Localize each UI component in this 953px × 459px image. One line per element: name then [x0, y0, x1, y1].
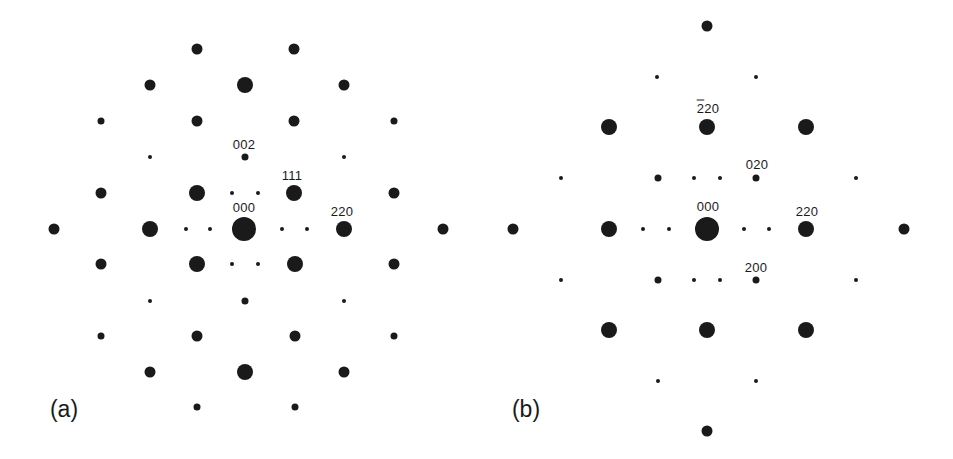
- diffraction-spot-small: [242, 154, 249, 161]
- diffraction-spot-tiny: [305, 227, 309, 231]
- diffraction-spot-large: [601, 119, 617, 135]
- diffraction-spot-center: [695, 217, 719, 241]
- diffraction-spot-large: [287, 256, 303, 272]
- miller-index-label: 020: [746, 157, 769, 172]
- diffraction-spot-large: [142, 221, 158, 237]
- diffraction-spot-medium: [389, 188, 400, 199]
- diffraction-spot-medium: [339, 80, 350, 91]
- diffraction-spot-tiny: [148, 299, 152, 303]
- diffraction-spot-tiny: [754, 75, 758, 79]
- diffraction-spot-large: [699, 119, 715, 135]
- diffraction-spot-large: [798, 221, 814, 237]
- diffraction-spot-large: [798, 322, 814, 338]
- diffraction-spot-medium: [192, 331, 203, 342]
- miller-index-label: 220: [796, 204, 819, 219]
- diffraction-spot-small: [391, 333, 398, 340]
- diffraction-spot-medium: [192, 116, 203, 127]
- diffraction-spot-tiny: [280, 227, 284, 231]
- diffraction-spot-medium: [702, 21, 713, 32]
- diffraction-spot-tiny: [692, 278, 696, 282]
- diffraction-spot-medium: [339, 367, 350, 378]
- miller-index-label: 000: [233, 200, 256, 215]
- diffraction-spot-medium: [96, 259, 107, 270]
- diffraction-spot-large: [798, 119, 814, 135]
- diffraction-spot-large: [189, 185, 205, 201]
- diffraction-spot-small: [753, 277, 760, 284]
- diffraction-spot-medium: [290, 331, 301, 342]
- miller-index-label: 220: [331, 204, 354, 219]
- diffraction-spot-large: [286, 185, 302, 201]
- diffraction-spot-large: [237, 77, 253, 93]
- diffraction-spot-tiny: [342, 299, 346, 303]
- diffraction-spot-medium: [289, 116, 300, 127]
- miller-index-label: 220: [697, 101, 720, 116]
- diffraction-spot-tiny: [256, 191, 260, 195]
- diffraction-spot-small: [753, 175, 760, 182]
- diffraction-spot-tiny: [559, 278, 563, 282]
- diffraction-spot-tiny: [718, 176, 722, 180]
- diffraction-spot-tiny: [854, 278, 858, 282]
- diffraction-spot-small: [655, 277, 662, 284]
- diffraction-spot-small: [98, 118, 105, 125]
- diffraction-spot-tiny: [256, 262, 260, 266]
- diffraction-spot-tiny: [667, 227, 671, 231]
- diffraction-spot-tiny: [767, 227, 771, 231]
- diffraction-spot-tiny: [184, 227, 188, 231]
- diffraction-spot-tiny: [148, 155, 152, 159]
- diffraction-spot-medium: [96, 188, 107, 199]
- diffraction-spot-small: [242, 298, 249, 305]
- miller-index-label: 200: [745, 260, 768, 275]
- panel-label: (b): [512, 396, 540, 423]
- diffraction-spot-tiny: [718, 278, 722, 282]
- diffraction-spot-medium: [145, 80, 156, 91]
- diffraction-spot-tiny: [742, 227, 746, 231]
- diffraction-spot-large: [699, 322, 715, 338]
- diffraction-spot-medium: [508, 224, 519, 235]
- diffraction-spot-small: [194, 404, 201, 411]
- diffraction-spot-medium: [438, 224, 449, 235]
- diffraction-spot-tiny: [655, 75, 659, 79]
- diffraction-spot-large: [601, 221, 617, 237]
- miller-index-label: 000: [697, 199, 720, 214]
- diffraction-spot-small: [292, 404, 299, 411]
- diffraction-spot-medium: [49, 224, 60, 235]
- diffraction-spot-small: [655, 175, 662, 182]
- miller-index-label: 002: [233, 137, 256, 152]
- diffraction-spot-medium: [389, 259, 400, 270]
- diffraction-spot-medium: [702, 426, 713, 437]
- diffraction-spot-tiny: [230, 262, 234, 266]
- diffraction-spot-medium: [899, 224, 910, 235]
- diffraction-spot-large: [237, 364, 253, 380]
- diffraction-spot-tiny: [641, 227, 645, 231]
- diffraction-spot-medium: [289, 44, 300, 55]
- diffraction-spot-tiny: [559, 176, 563, 180]
- panel-label: (a): [50, 396, 78, 423]
- diffraction-spot-large: [336, 221, 352, 237]
- diffraction-spot-tiny: [656, 379, 660, 383]
- diffraction-spot-tiny: [208, 227, 212, 231]
- diffraction-spot-medium: [145, 367, 156, 378]
- diffraction-spot-tiny: [754, 379, 758, 383]
- diffraction-spot-small: [98, 333, 105, 340]
- diffraction-spot-large: [601, 322, 617, 338]
- diffraction-spot-tiny: [342, 155, 346, 159]
- diffraction-spot-medium: [192, 44, 203, 55]
- diffraction-spot-tiny: [230, 191, 234, 195]
- diffraction-spot-tiny: [692, 176, 696, 180]
- diffraction-spot-small: [391, 118, 398, 125]
- miller-index-label: 111: [282, 168, 303, 183]
- diffraction-spot-large: [189, 256, 205, 272]
- diffraction-spot-center: [232, 217, 256, 241]
- diffraction-spot-tiny: [854, 176, 858, 180]
